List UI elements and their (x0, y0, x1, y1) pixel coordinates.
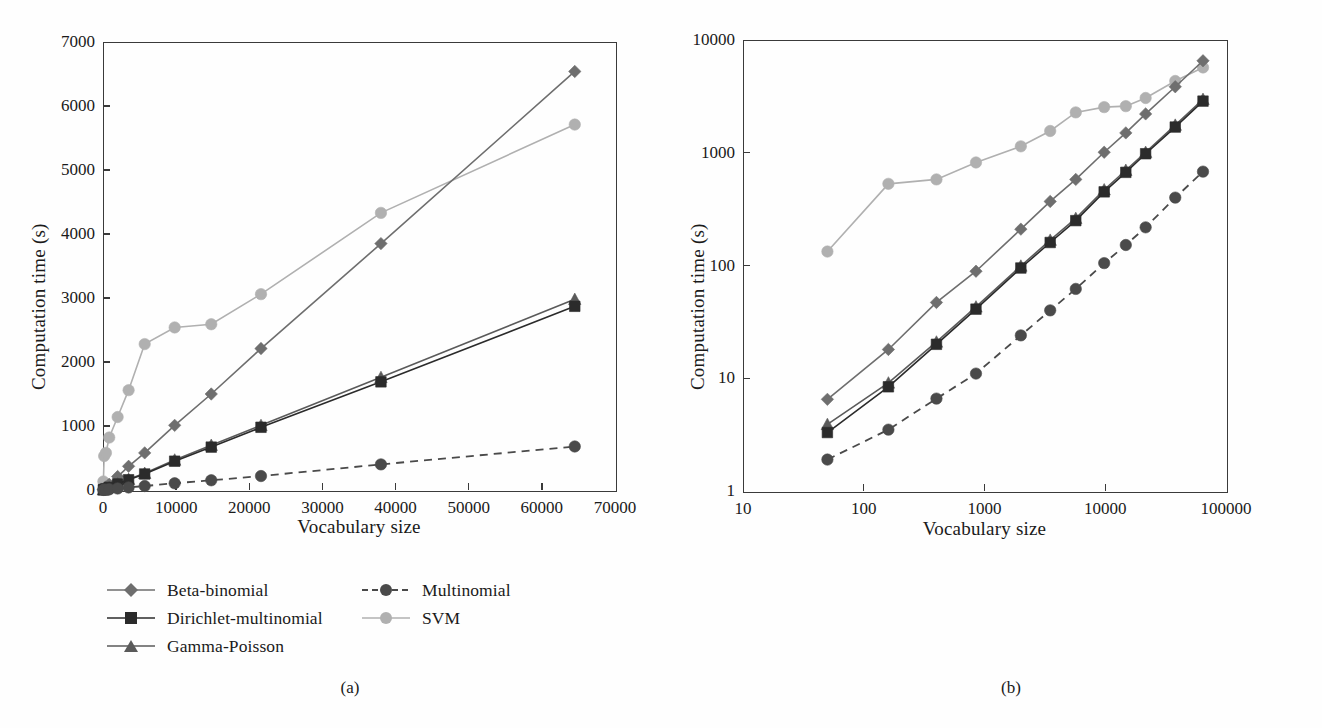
data-point-square-marker (931, 339, 942, 350)
legend-item-label: SVM (422, 608, 460, 629)
data-point-circle-marker (100, 447, 111, 458)
data-point-square-marker (1140, 148, 1151, 159)
data-point-square-marker (1121, 167, 1132, 178)
data-point-square-marker (883, 382, 894, 393)
panel-a-caption: (a) (250, 678, 450, 698)
circle-marker (360, 609, 412, 627)
data-point-square-marker (1198, 96, 1209, 107)
data-point-circle-marker (1015, 330, 1026, 341)
data-point-circle-marker (1070, 107, 1081, 118)
data-point-circle-marker (1045, 305, 1056, 316)
legend-item-label: Gamma-Poisson (167, 636, 284, 657)
data-point-circle-marker (970, 157, 981, 168)
data-point-circle-marker (104, 432, 115, 443)
data-point-circle-marker (139, 338, 150, 349)
data-point-circle-marker (1098, 257, 1109, 268)
circle-marker (360, 609, 412, 627)
data-point-circle-marker (169, 478, 180, 489)
square-marker (105, 609, 157, 627)
data-point-square-marker (1071, 215, 1082, 226)
data-point-circle-marker (206, 475, 217, 486)
data-point-circle-marker (255, 470, 266, 481)
square-marker (105, 609, 157, 627)
data-point-circle-marker (1140, 222, 1151, 233)
data-point-square-marker (1170, 122, 1181, 133)
legend-item-multinomial[interactable]: Multinomial (360, 576, 511, 604)
data-point-square-marker (139, 469, 150, 480)
legend-item-beta-binomial[interactable]: Beta-binomial (105, 576, 323, 604)
panel-a-legend-column-1: Beta-binomial Dirichlet-multinomial Gamm… (105, 576, 323, 660)
data-point-circle-marker (1197, 166, 1208, 177)
data-point-square-marker (1016, 263, 1027, 274)
data-point-circle-marker (375, 459, 386, 470)
data-point-circle-marker (883, 424, 894, 435)
legend-item-svm[interactable]: SVM (360, 604, 511, 632)
data-point-square-marker (1045, 237, 1056, 248)
panel-b-series-layer (661, 0, 1322, 728)
data-point-circle-marker (931, 393, 942, 404)
data-point-circle-marker (1170, 192, 1181, 203)
data-point-circle-marker (569, 441, 580, 452)
legend-item-gamma-poisson[interactable]: Gamma-Poisson (105, 632, 323, 660)
data-point-square-marker (376, 377, 387, 388)
data-point-circle-marker (1120, 239, 1131, 250)
diamond-marker (105, 581, 157, 599)
data-point-circle-marker (1120, 100, 1131, 111)
data-point-square-marker (570, 301, 581, 312)
data-point-circle-marker (1070, 283, 1081, 294)
data-point-circle-marker (1015, 141, 1026, 152)
data-point-square-marker (822, 427, 833, 438)
triangle-marker (105, 637, 157, 655)
data-point-circle-marker (883, 178, 894, 189)
panel-b-caption: (b) (911, 678, 1111, 698)
series-line-multinomial (827, 172, 1203, 460)
diamond-marker (105, 581, 157, 599)
data-point-square-marker (971, 304, 982, 315)
data-point-circle-marker (123, 384, 134, 395)
data-point-circle-marker (206, 319, 217, 330)
figure-container: Computation time (s) Vocabulary size 010… (0, 0, 1322, 728)
data-point-square-marker (169, 456, 180, 467)
circle-marker (360, 581, 412, 599)
triangle-marker (105, 637, 157, 655)
data-point-circle-marker (169, 322, 180, 333)
panel-b: Computation time (s) Vocabulary size 110… (661, 0, 1322, 728)
legend-item-label: Multinomial (422, 580, 511, 601)
data-point-circle-marker (255, 288, 266, 299)
data-point-circle-marker (112, 411, 123, 422)
data-point-circle-marker (123, 482, 134, 493)
data-point-circle-marker (970, 368, 981, 379)
data-point-circle-marker (822, 454, 833, 465)
legend-item-dirichlet-multinomial[interactable]: Dirichlet-multinomial (105, 604, 323, 632)
circle-marker (360, 581, 412, 599)
panel-a-legend-column-2: Multinomial SVM (360, 576, 511, 632)
data-point-circle-marker (112, 483, 123, 494)
data-point-circle-marker (1045, 125, 1056, 136)
data-point-circle-marker (1098, 101, 1109, 112)
data-point-circle-marker (375, 207, 386, 218)
data-point-circle-marker (1140, 92, 1151, 103)
data-point-circle-marker (931, 174, 942, 185)
data-point-circle-marker (139, 480, 150, 491)
data-point-square-marker (206, 442, 217, 453)
legend-item-label: Beta-binomial (167, 580, 268, 601)
data-point-circle-marker (822, 246, 833, 257)
data-point-square-marker (256, 422, 267, 433)
panel-a: Computation time (s) Vocabulary size 010… (0, 0, 661, 728)
data-point-square-marker (1099, 187, 1110, 198)
legend-item-label: Dirichlet-multinomial (167, 608, 323, 629)
panel-a-series-layer (0, 0, 661, 728)
data-point-circle-marker (569, 119, 580, 130)
